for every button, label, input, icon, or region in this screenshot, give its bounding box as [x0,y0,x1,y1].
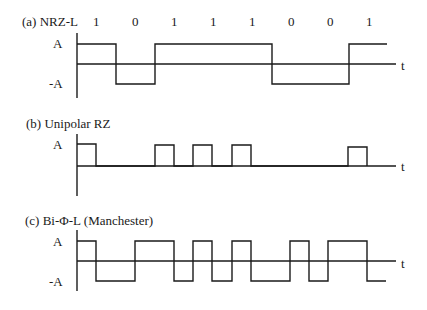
waveform-diagram [0,0,427,310]
unipolar-rz-waveform [77,144,367,166]
